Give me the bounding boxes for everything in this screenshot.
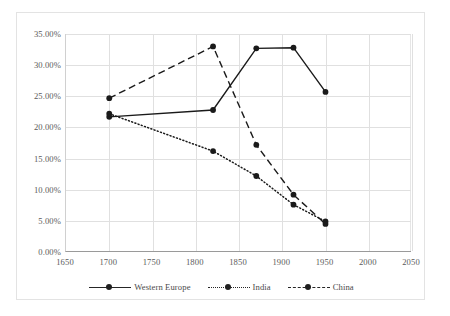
legend-label-india: India bbox=[253, 282, 271, 292]
legend-key-dashed-icon bbox=[288, 283, 330, 292]
x-tick-label: 2050 bbox=[402, 257, 420, 267]
x-tick-label: 1750 bbox=[143, 257, 161, 267]
x-tick-label: 1950 bbox=[316, 257, 334, 267]
x-tick-label: 1650 bbox=[56, 257, 74, 267]
data-point bbox=[210, 148, 216, 154]
x-axis-tick-labels: 165017001750180018501900195020002050 bbox=[65, 257, 411, 271]
y-axis-tick-labels: 0.00%5.00%10.00%15.00%20.00%25.00%30.00%… bbox=[17, 34, 61, 252]
x-tick-label: 1900 bbox=[272, 257, 290, 267]
y-tick-label: 35.00% bbox=[34, 29, 61, 39]
data-point bbox=[106, 111, 112, 117]
gridline bbox=[412, 34, 413, 251]
legend-label-china: China bbox=[333, 282, 354, 292]
data-point bbox=[253, 45, 259, 51]
plot-area bbox=[65, 34, 411, 252]
legend-label-western-europe: Western Europe bbox=[134, 282, 190, 292]
chart-plot-wrapper: 0.00%5.00%10.00%15.00%20.00%25.00%30.00%… bbox=[17, 13, 426, 301]
data-point bbox=[291, 192, 297, 198]
legend-key-dotted-icon bbox=[208, 283, 250, 292]
chart-legend: Western Europe India China bbox=[17, 279, 426, 295]
chart-container: 0.00%5.00%10.00%15.00%20.00%25.00%30.00%… bbox=[16, 12, 425, 300]
data-point bbox=[323, 89, 329, 95]
data-point bbox=[210, 44, 216, 50]
x-tick-label: 2000 bbox=[359, 257, 377, 267]
data-point bbox=[253, 142, 259, 148]
y-tick-label: 25.00% bbox=[34, 91, 61, 101]
data-point bbox=[253, 173, 259, 179]
data-point bbox=[210, 107, 216, 113]
y-tick-label: 0.00% bbox=[38, 247, 61, 257]
legend-item-western-europe[interactable]: Western Europe bbox=[89, 282, 190, 292]
legend-item-india[interactable]: India bbox=[208, 282, 271, 292]
data-series-layer bbox=[66, 34, 412, 252]
y-tick-label: 10.00% bbox=[34, 185, 61, 195]
legend-item-china[interactable]: China bbox=[288, 282, 354, 292]
y-tick-label: 20.00% bbox=[34, 122, 61, 132]
data-point bbox=[323, 221, 329, 227]
x-tick-label: 1850 bbox=[229, 257, 247, 267]
x-tick-label: 1700 bbox=[99, 257, 117, 267]
data-point bbox=[291, 202, 297, 208]
y-tick-label: 15.00% bbox=[34, 154, 61, 164]
y-tick-label: 30.00% bbox=[34, 60, 61, 70]
x-tick-label: 1800 bbox=[186, 257, 204, 267]
data-point bbox=[106, 95, 112, 101]
legend-key-solid-icon bbox=[89, 283, 131, 292]
y-tick-label: 5.00% bbox=[38, 216, 61, 226]
data-point bbox=[291, 45, 297, 51]
